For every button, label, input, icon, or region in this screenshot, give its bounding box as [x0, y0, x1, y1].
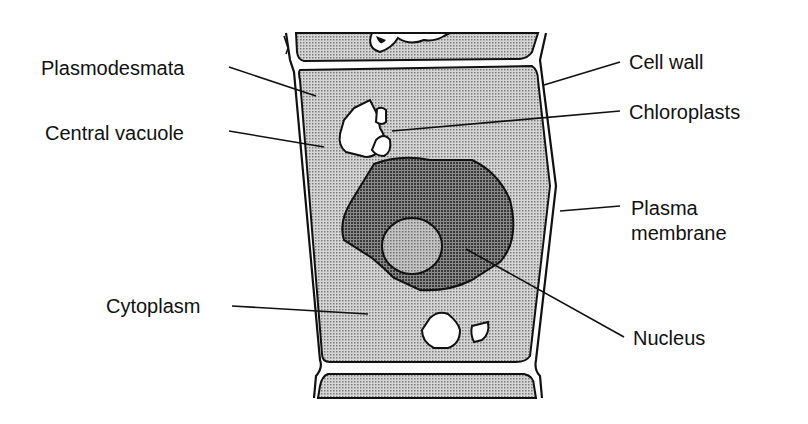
label-nucleus: Nucleus: [633, 327, 705, 349]
label-plasma-membrane: Plasma membrane: [631, 196, 727, 246]
label-plasmodesmata: Plasmodesmata: [41, 57, 184, 79]
upper-cell: [296, 33, 538, 61]
nucleolus-shape: [382, 218, 442, 274]
label-cytoplasm: Cytoplasm: [106, 295, 200, 317]
label-cell-wall: Cell wall: [629, 51, 703, 73]
label-central-vacuole: Central vacuole: [45, 122, 184, 144]
label-chloroplasts: Chloroplasts: [629, 101, 740, 123]
plant-cell-diagram: Plasmodesmata Central vacuole Cytoplasm …: [0, 0, 808, 424]
lower-cell: [318, 374, 536, 398]
chloroplast-shape: [376, 108, 386, 124]
